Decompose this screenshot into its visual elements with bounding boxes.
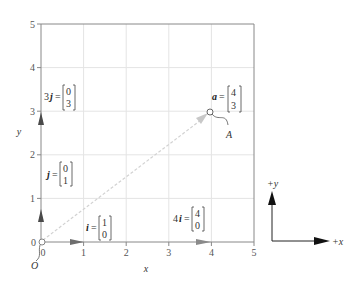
vec-a-eq: =	[219, 91, 225, 102]
vec-a-top: 4	[231, 87, 236, 98]
y-tick-2: 2	[30, 149, 35, 160]
y-tick-1: 1	[30, 193, 35, 204]
vector-a-arrowhead	[196, 113, 208, 124]
vec-4i-bottom: 0	[195, 220, 200, 231]
origin-x-coord: 0	[41, 247, 46, 258]
label-vector-a: a = 4 3	[212, 86, 241, 112]
vec-j-name: j	[45, 169, 50, 180]
direction-legend: +y +x	[267, 178, 344, 247]
tick-marks	[37, 24, 254, 246]
vec-a-name: a	[212, 91, 217, 102]
vec-i-name: i	[86, 222, 89, 233]
y-tick-labels: 1 2 3 4 5	[30, 19, 35, 204]
vector-diagram: 1 2 3 4 5 1 2 3 4 5 0 0 x y O	[0, 0, 350, 284]
y-axis-label: y	[16, 126, 22, 137]
x-axis-label: x	[143, 263, 149, 274]
x-tick-1: 1	[81, 247, 86, 258]
vec-a-bottom: 3	[231, 100, 236, 111]
vec-4i-top: 4	[195, 208, 200, 219]
plus-y-arrow-icon	[268, 191, 276, 205]
plus-x-arrow-icon	[314, 237, 330, 245]
vec-4i-coef: 4	[173, 213, 178, 224]
x-tick-2: 2	[124, 247, 129, 258]
origin-y-coord: 0	[31, 237, 36, 248]
plus-y-label: +y	[267, 178, 279, 189]
vec-3j-coef: 3	[44, 91, 49, 102]
y-tick-5: 5	[30, 19, 35, 30]
x-tick-3: 3	[166, 247, 171, 258]
vector-3j	[38, 112, 44, 125]
x-tick-5: 5	[252, 247, 257, 258]
vector-j-arrowhead	[38, 209, 44, 222]
vec-i-top: 1	[102, 217, 107, 228]
vec-i-eq: =	[91, 222, 97, 233]
vec-4i-name: i	[179, 213, 182, 224]
vector-i	[70, 239, 84, 245]
label-vector-4i: 4 i = 4 0	[173, 207, 204, 231]
point-a-label: A	[225, 129, 233, 140]
x-tick-labels: 1 2 3 4 5	[81, 247, 256, 258]
grid	[41, 24, 254, 242]
vec-j-bottom: 1	[63, 175, 68, 186]
x-tick-4: 4	[209, 247, 214, 258]
y-tick-4: 4	[30, 62, 35, 73]
label-vector-j: j = 0 1	[45, 162, 72, 186]
vec-i-bottom: 0	[102, 229, 107, 240]
y-tick-3: 3	[30, 106, 35, 117]
label-vector-i: i = 1 0	[86, 216, 111, 240]
label-vector-3j: 3 j = 0 3	[44, 85, 75, 110]
vector-j	[38, 209, 44, 222]
plus-x-label: +x	[332, 236, 344, 247]
vector-i-arrowhead	[70, 239, 84, 245]
vec-j-top: 0	[63, 163, 68, 174]
vector-3j-arrowhead	[38, 112, 44, 125]
vector-4i-arrowhead	[196, 239, 211, 245]
vec-4i-eq: =	[184, 213, 190, 224]
origin-label: O	[31, 260, 38, 271]
vec-3j-eq: =	[55, 91, 61, 102]
vector-4i	[196, 239, 211, 245]
plot-frame	[41, 24, 254, 242]
vec-3j-top: 0	[66, 86, 71, 97]
vec-3j-bottom: 3	[66, 98, 71, 109]
vec-j-eq: =	[52, 169, 58, 180]
